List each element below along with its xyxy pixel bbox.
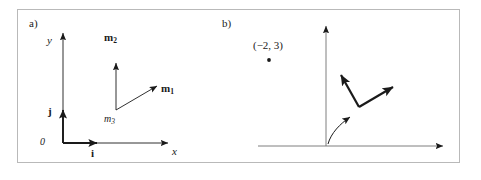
panel-a-vector-m2-label: m2 (104, 32, 117, 45)
panel-a-basis-i-label: i (91, 148, 94, 159)
panel-a-x-axis-label: x (172, 146, 177, 157)
panel-a-local-origin-subscript: 3 (111, 117, 115, 126)
panel-a-vector-m1 (116, 86, 157, 110)
panel-a-vector-m1-subscript: 1 (170, 87, 174, 96)
panel-b-label: b) (222, 18, 231, 29)
panel-a-vector-m2-subscript: 2 (113, 36, 117, 45)
panel-b-rotated-vector-2 (359, 87, 393, 107)
panel-a-local-origin-label: m3 (104, 114, 115, 126)
figure-root: a) y x 0 i j m2 m1 m3 b) (−2, 3) (0, 0, 481, 180)
panel-b-rotation-arc-icon (328, 117, 350, 144)
panel-a-vector-m2-base: m (104, 31, 113, 43)
panel-a-graphics (63, 33, 168, 143)
panel-a-vector-m1-label: m1 (161, 83, 174, 96)
panel-b-rotated-vector-1 (341, 75, 359, 107)
panel-a-vector-m1-base: m (161, 82, 170, 94)
panel-b-graphics (258, 26, 443, 146)
panel-a-label: a) (29, 18, 38, 29)
figure-vector-layer (0, 0, 481, 180)
panel-a-basis-j-label: j (48, 106, 52, 117)
panel-b-point-label: (−2, 3) (253, 40, 283, 51)
panel-b-point-marker (267, 58, 271, 62)
panel-a-y-axis-label: y (47, 35, 52, 46)
panel-a-origin-label: 0 (40, 137, 45, 147)
